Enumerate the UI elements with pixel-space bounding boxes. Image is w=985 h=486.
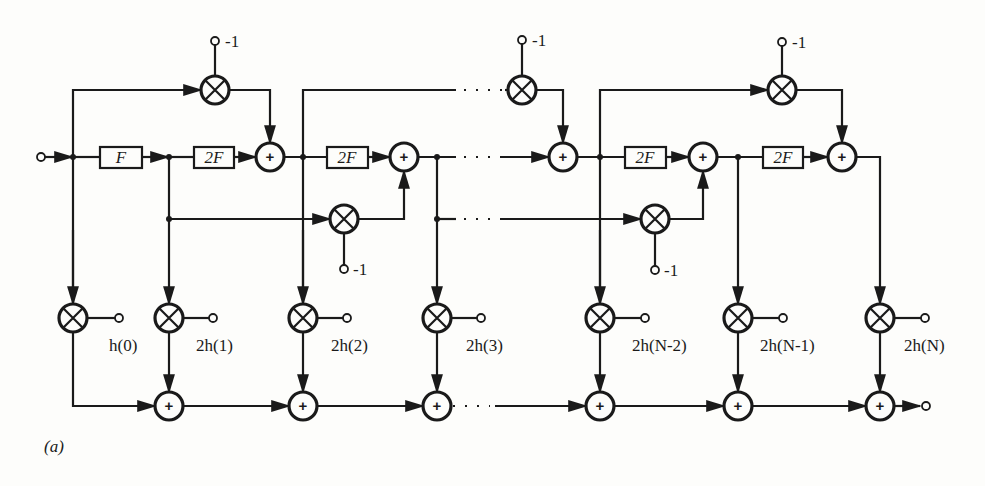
adder-icon: + bbox=[155, 392, 183, 420]
negation-label: -1 bbox=[664, 261, 678, 280]
multiplier-icon bbox=[768, 76, 796, 104]
svg-text:+: + bbox=[596, 397, 605, 414]
svg-text:+: + bbox=[838, 148, 847, 165]
multiplier-icon bbox=[330, 205, 358, 233]
svg-text:+: + bbox=[165, 397, 174, 414]
tap-multiplier-icon bbox=[289, 304, 317, 332]
coefficient-label: 2h(1) bbox=[196, 336, 233, 355]
coefficient-label: h(0) bbox=[109, 336, 137, 355]
tap-multiplier-icon bbox=[155, 304, 183, 332]
adder-icon: + bbox=[549, 143, 577, 171]
delay-label: 2F bbox=[338, 148, 358, 167]
multiplier-icon bbox=[641, 205, 669, 233]
tap-multiplier-icon bbox=[586, 304, 614, 332]
adder-icon: + bbox=[390, 143, 418, 171]
coefficient-label: 2h(N-2) bbox=[632, 336, 687, 355]
svg-text:+: + bbox=[559, 148, 568, 165]
negation-label: -1 bbox=[792, 33, 806, 52]
adder-icon: + bbox=[423, 392, 451, 420]
top-paths bbox=[73, 90, 842, 320]
delay-label: 2F bbox=[774, 148, 794, 167]
tap-multiplier-icon bbox=[423, 304, 451, 332]
coefficient-label: 2h(3) bbox=[466, 336, 503, 355]
delay-label: 2F bbox=[636, 148, 656, 167]
adder-icon: + bbox=[586, 392, 614, 420]
svg-text:+: + bbox=[266, 148, 275, 165]
coefficient-label: 2h(N) bbox=[904, 336, 945, 355]
tap-multiplier-icon bbox=[866, 304, 894, 332]
svg-text:+: + bbox=[299, 397, 308, 414]
delay-block-4: 2F bbox=[625, 147, 666, 168]
input-terminal-icon bbox=[37, 153, 45, 161]
coefficient-label: 2h(2) bbox=[331, 336, 368, 355]
adder-icon: + bbox=[828, 143, 856, 171]
negation-label: -1 bbox=[225, 32, 239, 51]
delay-label: 2F bbox=[205, 148, 225, 167]
main-delay-line bbox=[45, 157, 880, 304]
delay-block-3: 2F bbox=[327, 147, 368, 168]
adder-icon: + bbox=[866, 392, 894, 420]
svg-text:+: + bbox=[400, 148, 409, 165]
delay-block-5: 2F bbox=[763, 147, 803, 168]
fir-filter-block-diagram: F 2F 2F 2F 2F + + + + + + + + + + + bbox=[0, 0, 985, 486]
tap-multiplier-icon bbox=[59, 304, 87, 332]
delay-label: F bbox=[115, 148, 127, 167]
figure-caption-label: (a) bbox=[44, 437, 64, 456]
svg-text:+: + bbox=[433, 397, 442, 414]
multiplier-icon bbox=[201, 76, 229, 104]
multiplier-icon bbox=[508, 76, 536, 104]
adder-icon: + bbox=[289, 392, 317, 420]
delay-block-1: F bbox=[100, 147, 142, 168]
tap-feeds bbox=[73, 230, 600, 304]
negation-label: -1 bbox=[532, 31, 546, 50]
coefficient-label: 2h(N-1) bbox=[760, 336, 815, 355]
svg-text:+: + bbox=[734, 397, 743, 414]
output-terminal-icon bbox=[922, 402, 930, 410]
svg-text:+: + bbox=[699, 148, 708, 165]
svg-text:+: + bbox=[876, 397, 885, 414]
negation-label: -1 bbox=[353, 260, 367, 279]
adder-icon: + bbox=[256, 143, 284, 171]
coefficient-terminals bbox=[115, 314, 929, 322]
tap-multiplier-icon bbox=[724, 304, 752, 332]
adder-icon: + bbox=[724, 392, 752, 420]
delay-block-2: 2F bbox=[194, 147, 234, 168]
adder-icon: + bbox=[689, 143, 717, 171]
